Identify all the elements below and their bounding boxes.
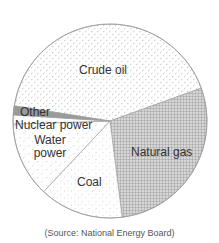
label-water-power-line2: power <box>28 147 72 160</box>
label-coal: Coal <box>77 176 102 189</box>
label-natural-gas: Natural gas <box>131 146 192 159</box>
source-caption: (Source: National Energy Board) <box>0 228 219 238</box>
label-water-power: Water power <box>28 134 72 160</box>
label-nuclear-power: Nuclear power <box>15 119 92 132</box>
label-crude-oil: Crude oil <box>79 64 127 77</box>
